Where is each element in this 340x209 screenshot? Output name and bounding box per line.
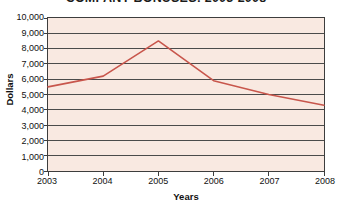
x-axis-tick-label: 2006: [194, 176, 234, 186]
x-axis-tick-label: 2007: [249, 176, 289, 186]
series-bonuses: [48, 41, 324, 105]
y-axis-tick-label: 10,000: [0, 12, 44, 22]
x-axis-tick-labels: 200320042005200620072008: [47, 176, 325, 189]
y-axis-tick-label: 6,000: [0, 74, 44, 84]
plot-area: [47, 17, 325, 172]
y-axis-tick-label: 5,000: [0, 90, 44, 100]
chart-title: COMPANY BONUSES: 2003-2008: [0, 0, 332, 3]
y-axis-tick-label: 1,000: [0, 152, 44, 162]
y-axis-tick-label: 8,000: [0, 43, 44, 53]
y-axis-tick-label: 3,000: [0, 121, 44, 131]
x-axis-tick-label: 2008: [305, 176, 340, 186]
data-series-line: [48, 18, 324, 171]
x-axis-tick-label: 2005: [138, 176, 178, 186]
y-axis-tick-label: 4,000: [0, 105, 44, 115]
x-axis-tick-label: 2004: [83, 176, 123, 186]
x-axis-title: Years: [47, 191, 325, 202]
y-axis-tick-label: 2,000: [0, 136, 44, 146]
y-axis-tick-labels: 01,0002,0003,0004,0005,0006,0007,0008,00…: [0, 17, 44, 172]
y-axis-tick-label: 7,000: [0, 59, 44, 69]
y-axis-tick-label: 9,000: [0, 28, 44, 38]
x-axis-tick-label: 2003: [27, 176, 67, 186]
